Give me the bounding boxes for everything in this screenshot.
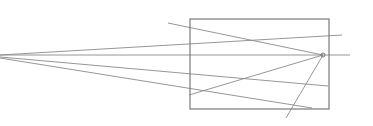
- perspective-diagram: [0, 0, 373, 126]
